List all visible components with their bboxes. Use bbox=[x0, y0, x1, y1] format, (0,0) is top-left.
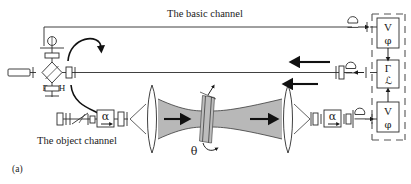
sample-rotation-arrow bbox=[203, 143, 216, 150]
detection-beam-collector bbox=[294, 104, 310, 134]
object-arm-alpha-label: α bbox=[102, 110, 110, 123]
beamsplitter-label-h: H bbox=[59, 83, 66, 93]
object-arm-coupler bbox=[88, 114, 95, 125]
detection-arm-alpha-label: α bbox=[329, 110, 337, 123]
routing-arrow-upper bbox=[68, 39, 101, 61]
instrument-box-detector-top-line1: V bbox=[384, 21, 392, 33]
instrument-box-correlator-line2: ℒ bbox=[385, 75, 392, 86]
beam-splitter-cube bbox=[42, 62, 62, 83]
figure-container: The basic channel F H The object bbox=[0, 0, 411, 184]
detection-arm-aperture bbox=[311, 112, 321, 126]
photodetector-bottom bbox=[355, 108, 373, 124]
panel-label: (a) bbox=[12, 164, 23, 175]
object-beam-expander bbox=[130, 104, 146, 134]
detection-arm-coupler bbox=[344, 110, 353, 128]
instrument-box-detector-bottom-line2: φ bbox=[384, 119, 391, 130]
detection-arm-modulator-alpha: α bbox=[324, 110, 341, 127]
instrument-box-correlator[interactable]: Γ ℒ bbox=[377, 60, 399, 88]
object-arm-tilted-plate bbox=[72, 113, 88, 124]
sample-angle-label: θ bbox=[191, 145, 198, 158]
instrument-box-detector-top-line2: φ bbox=[384, 35, 391, 46]
rack-input-stubs bbox=[370, 27, 377, 119]
object-channel-label: The object channel bbox=[37, 135, 117, 146]
reference-line-optics bbox=[62, 67, 352, 78]
basic-channel-label: The basic channel bbox=[167, 8, 243, 19]
lens-right bbox=[284, 85, 293, 153]
instrument-box-correlator-line1: Γ bbox=[385, 62, 391, 74]
instrument-box-detector-bottom[interactable]: V φ bbox=[377, 102, 399, 132]
optical-setup-diagram: The basic channel F H The object bbox=[0, 0, 411, 184]
photodetector-middle bbox=[336, 62, 366, 79]
basic-channel-path bbox=[44, 27, 352, 46]
sample-plate bbox=[200, 96, 215, 144]
instrument-box-detector-bottom-line1: V bbox=[384, 105, 392, 117]
object-arm-modulator-alpha: α bbox=[97, 110, 114, 127]
lens-left bbox=[148, 85, 157, 153]
photodetector-top bbox=[348, 17, 368, 32]
laser-source bbox=[8, 67, 36, 78]
instrument-box-detector-top[interactable]: V φ bbox=[377, 18, 399, 48]
